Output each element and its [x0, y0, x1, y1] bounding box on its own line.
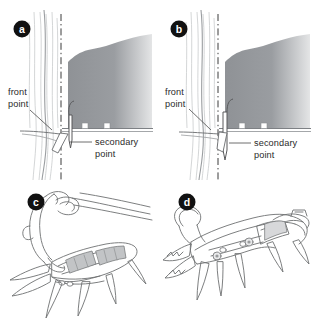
ice-wall	[29, 12, 58, 180]
ice-pick-sliver-2	[22, 134, 57, 141]
panel-badge-a-letter: a	[19, 23, 25, 35]
leader-line-front-point	[189, 109, 211, 130]
ice-edge	[199, 10, 203, 180]
label-front-point-line1: front	[8, 87, 27, 97]
boot-silhouette	[225, 34, 310, 128]
label-front-point-line1: front	[165, 87, 184, 97]
toe-bail	[56, 197, 79, 215]
pivot-rivets	[213, 238, 253, 260]
secondary-points	[46, 260, 146, 318]
label-secondary-point-line1: secondary	[95, 137, 139, 147]
panel-b: b front point secondary point	[157, 0, 315, 180]
leader-line-front-point	[30, 110, 52, 130]
ice-edge	[42, 10, 46, 180]
heel-pad	[265, 221, 287, 240]
panel-badge-a: a	[14, 21, 31, 38]
crampon-front-point	[69, 115, 72, 148]
panel-badge-b-letter: b	[176, 23, 182, 35]
panel-c: c	[0, 180, 157, 321]
panel-a: a front point secondary point	[0, 0, 157, 180]
boot-silhouette	[68, 34, 152, 128]
crampon-secondary-point	[52, 133, 68, 153]
panel-badge-d: d	[179, 194, 196, 211]
panel-badge-d-letter: d	[184, 196, 190, 208]
label-front-point-line2: point	[165, 99, 186, 109]
binding-strap	[72, 193, 152, 220]
label-secondary-point-line2: point	[254, 150, 275, 160]
front-points	[10, 264, 50, 296]
label-secondary-point-line2: point	[95, 149, 116, 159]
panel-d: d	[157, 180, 315, 321]
figure-root: a front point secondary point	[0, 0, 315, 321]
panel-badge-c-letter: c	[33, 196, 39, 208]
label-front-point-line2: point	[8, 99, 29, 109]
ice-pick-sliver	[20, 131, 60, 134]
panel-badge-c: c	[28, 194, 45, 211]
ice-wall	[186, 12, 215, 180]
front-points	[163, 244, 195, 278]
heel-lever	[175, 206, 206, 244]
label-secondary-point-line1: secondary	[254, 138, 298, 148]
panel-badge-b: b	[171, 21, 188, 38]
